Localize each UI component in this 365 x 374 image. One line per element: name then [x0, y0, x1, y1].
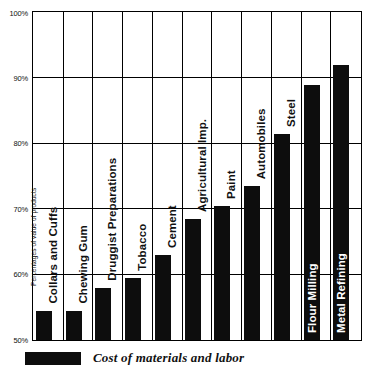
bar-collars-and-cuffs [36, 311, 52, 340]
bar-paint [214, 206, 230, 340]
bar-chart: 50%60%70%80%90%100% Collars and CuffsChe… [0, 0, 365, 374]
y-axis-tick-60: 60% [2, 270, 28, 279]
legend-swatch-cost-of-materials-and-labor [25, 352, 81, 365]
bar-flour-milling [304, 85, 320, 340]
chart-legend: Cost of materials and labor [0, 349, 365, 374]
legend-label-cost-of-materials-and-labor: Cost of materials and labor [93, 350, 244, 366]
gridline-vertical-1 [63, 12, 64, 340]
y-axis-title: Percentages of value of products [30, 188, 37, 286]
y-axis-tick-90: 90% [2, 73, 28, 82]
bar-chewing-gum [66, 311, 82, 340]
gridline-horizontal-90 [33, 77, 361, 78]
bar-metal-refining [333, 65, 349, 340]
bar-automobiles [244, 186, 260, 340]
gridline-vertical-7 [241, 12, 242, 340]
y-axis-tick-50: 50% [2, 335, 28, 344]
bar-druggist-preparations [95, 288, 111, 340]
plot-area: Collars and CuffsChewing GumDruggist Pre… [32, 11, 362, 341]
gridline-vertical-4 [152, 12, 153, 340]
gridline-vertical-9 [301, 12, 302, 340]
y-axis-tick-70: 70% [2, 204, 28, 213]
plot-inner: Collars and CuffsChewing GumDruggist Pre… [33, 12, 361, 340]
gridline-vertical-2 [92, 12, 93, 340]
bar-steel [274, 134, 290, 340]
bar-tobacco [125, 278, 141, 340]
bar-agricultural-imp [185, 219, 201, 340]
bar-cement [155, 255, 171, 340]
gridline-vertical-6 [211, 12, 212, 340]
y-axis-tick-100: 100% [2, 8, 28, 17]
y-axis-tick-80: 80% [2, 139, 28, 148]
gridline-vertical-5 [182, 12, 183, 340]
gridline-vertical-8 [271, 12, 272, 340]
gridline-vertical-10 [330, 12, 331, 340]
gridline-vertical-3 [122, 12, 123, 340]
